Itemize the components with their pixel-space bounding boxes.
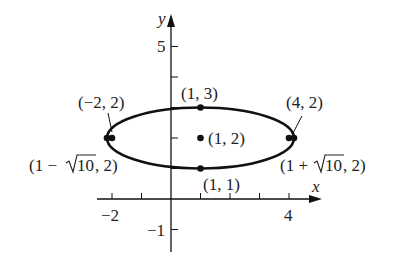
center-point bbox=[197, 135, 204, 142]
focus-right-label: (4, 2) bbox=[286, 93, 323, 112]
svg-text:, 2): , 2) bbox=[343, 156, 366, 175]
bottom-point bbox=[197, 165, 204, 172]
ellipse-figure: −2 4 x 5 −1 y bbox=[0, 0, 396, 272]
top-point bbox=[197, 104, 204, 111]
svg-text:(1 −: (1 − bbox=[29, 156, 57, 175]
focus-left-label: (−2, 2) bbox=[78, 93, 124, 112]
y-axis: 5 −1 y bbox=[147, 9, 178, 252]
vertex-left-point bbox=[104, 135, 111, 142]
y-axis-label: y bbox=[156, 9, 166, 28]
vertex-right-label: (1 + 10 , 2) bbox=[280, 155, 366, 175]
svg-text:, 2): , 2) bbox=[95, 156, 118, 175]
top-point-label: (1, 3) bbox=[181, 84, 218, 103]
vertex-right-point bbox=[291, 135, 298, 142]
x-axis-arrow-icon bbox=[309, 195, 322, 203]
svg-text:10: 10 bbox=[77, 156, 94, 175]
y-tick-label: −1 bbox=[147, 221, 165, 240]
x-axis-label: x bbox=[311, 177, 320, 196]
x-tick-label: 4 bbox=[284, 206, 293, 225]
y-axis-arrow-icon bbox=[167, 14, 175, 27]
ellipse-plot: −2 4 x 5 −1 y bbox=[0, 0, 396, 272]
svg-text:10: 10 bbox=[325, 156, 342, 175]
bottom-point-label: (1, 1) bbox=[203, 175, 240, 194]
focus-right-leader bbox=[293, 116, 302, 133]
svg-text:(1 +: (1 + bbox=[280, 156, 308, 175]
y-tick-label: 5 bbox=[157, 37, 166, 56]
center-point-label: (1, 2) bbox=[208, 129, 245, 148]
x-tick-label: −2 bbox=[101, 206, 119, 225]
vertex-left-label: (1 − 10 , 2) bbox=[29, 155, 118, 175]
points bbox=[104, 104, 298, 172]
